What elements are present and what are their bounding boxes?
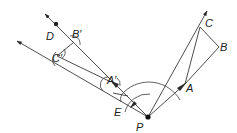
label-e: E bbox=[114, 106, 122, 118]
rotation-arc bbox=[124, 82, 180, 100]
ray-pe bbox=[17, 41, 148, 117]
compass-arc-e bbox=[121, 92, 124, 102]
label-d: D bbox=[46, 30, 54, 42]
ray-pc bbox=[148, 11, 207, 117]
label-p: P bbox=[136, 121, 144, 133]
label-c: C bbox=[205, 17, 213, 29]
angle-arc bbox=[125, 94, 150, 112]
rotation-arrow-icon bbox=[130, 101, 137, 108]
label-a-prime: A′ bbox=[106, 74, 117, 86]
label-a: A bbox=[185, 82, 193, 94]
point-p bbox=[145, 114, 150, 119]
ray-pd bbox=[45, 14, 148, 117]
rotation-construction-diagram: C B A P E A′ C′ B′ D bbox=[0, 0, 237, 133]
segment-cb bbox=[200, 27, 219, 47]
label-b-prime: B′ bbox=[72, 28, 82, 40]
point-d bbox=[54, 22, 58, 26]
label-c-prime: C′ bbox=[52, 52, 63, 64]
triangle-abc bbox=[185, 27, 219, 84]
label-b: B bbox=[220, 41, 227, 53]
diagram-canvas: C B A P E A′ C′ B′ D bbox=[0, 0, 237, 133]
triangle-a-prime-b-prime-c-prime bbox=[57, 42, 111, 82]
